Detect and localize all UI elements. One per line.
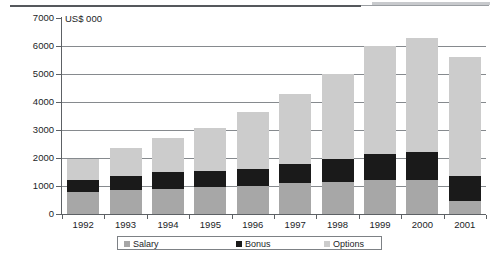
- bar-segment-options[interactable]: [279, 94, 311, 163]
- bar-segment-bonus[interactable]: [322, 159, 354, 181]
- bar-segment-bonus[interactable]: [364, 154, 396, 181]
- bar-segment-salary[interactable]: [237, 186, 269, 214]
- legend-item-salary[interactable]: Salary: [124, 238, 159, 250]
- bar-segment-bonus[interactable]: [194, 171, 226, 188]
- bar-segment-options[interactable]: [406, 38, 438, 153]
- header-smudge: [372, 2, 490, 5]
- bar-segment-bonus[interactable]: [67, 180, 99, 191]
- bar-segment-salary[interactable]: [322, 182, 354, 214]
- x-axis-tick: [189, 215, 190, 219]
- x-axis-tick: [316, 215, 317, 219]
- bar-segment-salary[interactable]: [194, 187, 226, 214]
- x-axis-tick: [486, 215, 487, 219]
- legend-swatch-options-icon: [324, 241, 330, 247]
- x-axis-label: 2001: [440, 220, 490, 230]
- y-axis-label: 3000: [8, 125, 54, 135]
- bar-segment-options[interactable]: [322, 74, 354, 159]
- bar-segment-salary[interactable]: [406, 180, 438, 214]
- y-axis-label: 2000: [8, 153, 54, 163]
- bar-segment-salary[interactable]: [279, 183, 311, 214]
- bar-segment-options[interactable]: [449, 57, 481, 176]
- legend-label: Salary: [133, 239, 159, 249]
- bar-segment-options[interactable]: [364, 46, 396, 154]
- x-axis-tick: [62, 215, 63, 219]
- x-axis-tick: [104, 215, 105, 219]
- bar-segment-options[interactable]: [152, 138, 184, 172]
- bar-segment-salary[interactable]: [449, 201, 481, 214]
- legend-item-options[interactable]: Options: [324, 238, 364, 250]
- bar-segment-salary[interactable]: [110, 190, 142, 214]
- bar-segment-options[interactable]: [110, 148, 142, 176]
- x-axis-tick: [444, 215, 445, 219]
- bar-segment-bonus[interactable]: [152, 172, 184, 189]
- y-axis-label: 0: [8, 209, 54, 219]
- x-axis-tick: [274, 215, 275, 219]
- bar-segment-salary[interactable]: [67, 192, 99, 214]
- plot-area: [62, 18, 486, 214]
- header-rule-right: [361, 5, 489, 6]
- legend-item-bonus[interactable]: Bonus: [236, 238, 271, 250]
- legend-label: Bonus: [245, 239, 271, 249]
- bar-segment-bonus[interactable]: [449, 176, 481, 201]
- bar-segment-options[interactable]: [194, 128, 226, 171]
- bar-segment-bonus[interactable]: [237, 169, 269, 186]
- y-axis-label: 6000: [8, 41, 54, 51]
- legend-label: Options: [333, 239, 364, 249]
- header-rule: [10, 5, 361, 7]
- legend-swatch-bonus-icon: [236, 241, 242, 247]
- y-axis-labels: 01000200030004000500060007000: [2, 0, 54, 260]
- bar-segment-bonus[interactable]: [279, 164, 311, 184]
- y-axis-label: 4000: [8, 97, 54, 107]
- legend-swatch-salary-icon: [124, 241, 130, 247]
- x-axis-tick: [147, 215, 148, 219]
- bar-segment-bonus[interactable]: [110, 176, 142, 190]
- bar-segment-salary[interactable]: [152, 189, 184, 214]
- y-axis-label: 1000: [8, 181, 54, 191]
- y-axis-label: 7000: [8, 13, 54, 23]
- y-axis-label: 5000: [8, 69, 54, 79]
- x-axis-tick: [232, 215, 233, 219]
- bar-segment-options[interactable]: [67, 159, 99, 180]
- chart-page: US$ 000 01000200030004000500060007000 19…: [0, 0, 496, 260]
- x-axis-tick: [359, 215, 360, 219]
- bar-segment-salary[interactable]: [364, 180, 396, 214]
- bar-segment-options[interactable]: [237, 112, 269, 169]
- chart-legend: SalaryBonusOptions: [117, 236, 382, 250]
- bar-segment-bonus[interactable]: [406, 152, 438, 180]
- x-axis-tick: [401, 215, 402, 219]
